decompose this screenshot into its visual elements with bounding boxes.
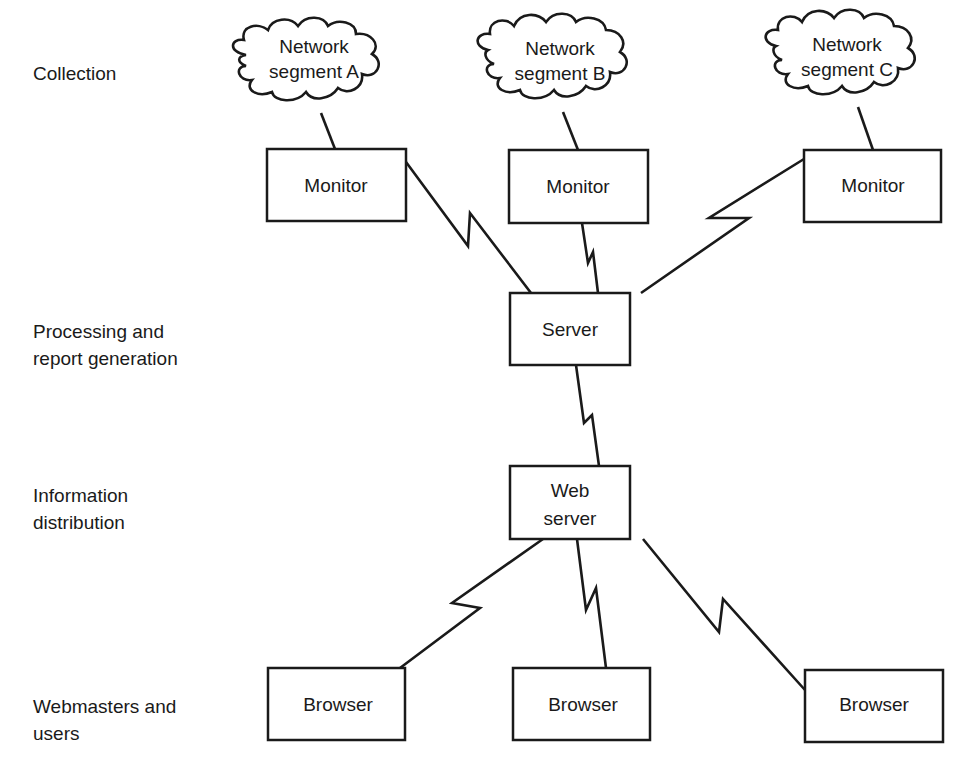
cloud-shape <box>233 18 379 101</box>
cloud-label-line1: Network <box>279 36 349 57</box>
node-monitor-a: Monitor <box>267 149 406 221</box>
node-server: Server <box>510 293 630 365</box>
edge-web-server-browser-1 <box>400 539 543 668</box>
cloud-label-line1: Network <box>812 34 882 55</box>
node-label: Monitor <box>841 175 905 196</box>
node-label: Monitor <box>546 176 610 197</box>
cloud-label-line1: Network <box>525 38 595 59</box>
node-label: Browser <box>303 694 373 715</box>
edge-web-server-browser-2 <box>577 539 606 668</box>
cloud-label-line2: segment A <box>269 61 359 82</box>
network-diagram: Network segment A Network segment B Netw… <box>0 0 973 764</box>
edge-segment-b-monitor-b <box>563 112 578 150</box>
cloud-segment-a: Network segment A <box>233 18 379 101</box>
node-web-server: Web server <box>510 466 630 539</box>
cloud-segment-c: Network segment C <box>766 10 915 95</box>
node-browser-2: Browser <box>513 668 650 740</box>
cloud-label-line2: segment C <box>801 59 893 80</box>
node-label: Monitor <box>304 175 368 196</box>
edge-segment-a-monitor-a <box>321 113 335 149</box>
node-label: Browser <box>548 694 618 715</box>
edge-monitor-b-server <box>582 223 598 293</box>
node-label: Browser <box>839 694 909 715</box>
edge-web-server-browser-3 <box>643 539 805 690</box>
node-browser-1: Browser <box>268 668 405 740</box>
cloud-segment-b: Network segment B <box>478 14 627 99</box>
node-monitor-b: Monitor <box>509 150 648 223</box>
cloud-label-line2: segment B <box>515 63 606 84</box>
edge-monitor-c-server <box>641 159 804 293</box>
node-label-line1: Web <box>551 480 590 501</box>
edge-server-web-server <box>576 365 599 466</box>
node-monitor-c: Monitor <box>804 150 941 222</box>
node-browser-3: Browser <box>805 670 943 742</box>
node-label-line2: server <box>544 508 597 529</box>
node-label: Server <box>542 319 599 340</box>
edge-segment-c-monitor-c <box>858 107 873 150</box>
